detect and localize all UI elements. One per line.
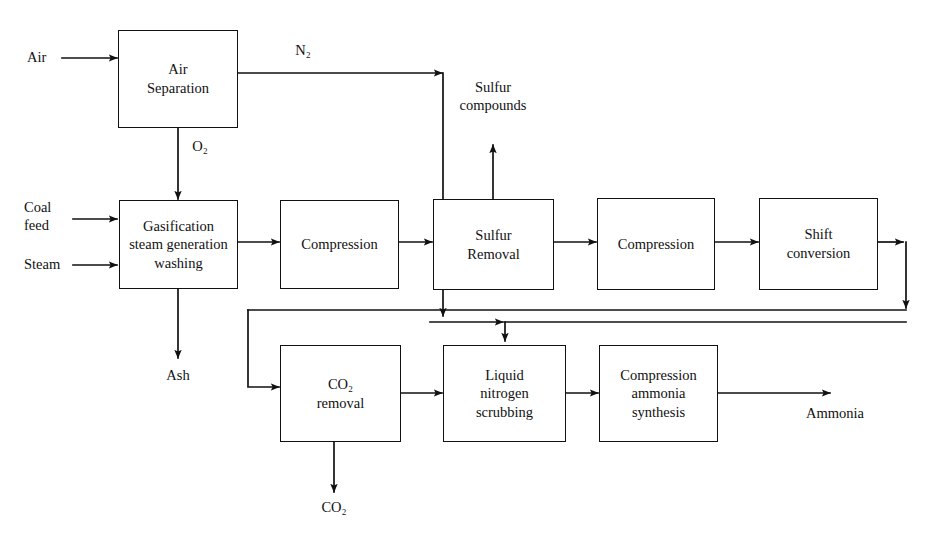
process-box-label: Gasification steam generation washing — [129, 217, 228, 273]
stream-label-ammonia: Ammonia — [790, 404, 880, 422]
process-box-air-separation[interactable]: Air Separation — [118, 30, 238, 128]
process-box-shift-conversion[interactable]: Shift conversion — [759, 198, 878, 290]
process-box-label: Liquid nitrogen scrubbing — [476, 366, 533, 422]
stream-label-sulfur-compounds: Sulfur compounds — [433, 78, 553, 114]
process-box-label: Compression ammonia synthesis — [620, 366, 697, 422]
process-flow-diagram: Air Separation Gasification steam genera… — [0, 0, 944, 547]
stream-label-carbon-dioxide: CO₂ — [311, 498, 357, 516]
process-box-label: CO₂ removal — [317, 375, 365, 412]
process-box-label: Compression — [618, 235, 695, 254]
stream-label-oxygen: O₂ — [183, 137, 217, 155]
process-box-gasification[interactable]: Gasification steam generation washing — [119, 200, 238, 289]
stream-label-air: Air — [27, 48, 67, 66]
process-box-co2-removal[interactable]: CO₂ removal — [280, 345, 401, 442]
process-box-label: Air Separation — [147, 60, 209, 97]
stream-label-coal-feed: Coal feed — [24, 198, 74, 234]
stream-label-nitrogen: N₂ — [286, 41, 320, 59]
stream-label-ash: Ash — [155, 366, 201, 384]
process-box-compression-1[interactable]: Compression — [280, 200, 399, 289]
process-box-label: Compression — [301, 235, 378, 254]
stream-label-steam: Steam — [24, 255, 84, 273]
process-box-liquid-nitrogen-scrubbing[interactable]: Liquid nitrogen scrubbing — [443, 345, 566, 442]
process-box-label: Shift conversion — [787, 225, 851, 262]
process-box-sulfur-removal[interactable]: Sulfur Removal — [433, 199, 554, 290]
process-box-compression-2[interactable]: Compression — [597, 198, 715, 290]
process-box-compression-ammonia-synthesis[interactable]: Compression ammonia synthesis — [599, 345, 718, 442]
process-box-label: Sulfur Removal — [467, 226, 519, 263]
